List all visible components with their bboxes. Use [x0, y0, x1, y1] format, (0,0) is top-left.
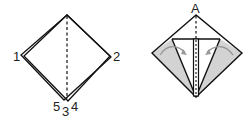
- left-diamond-back: [21, 15, 111, 100]
- label-3: 3: [62, 104, 69, 119]
- right-figure: A: [152, 1, 242, 97]
- origami-diagram: 1 2 5 3 4 A: [0, 0, 250, 124]
- label-5: 5: [53, 99, 60, 114]
- label-4: 4: [71, 99, 78, 114]
- label-2: 2: [113, 49, 120, 64]
- left-figure: 1 2 5 3 4: [13, 15, 120, 119]
- label-A: A: [191, 1, 200, 16]
- label-1: 1: [13, 49, 20, 64]
- center-strip: [194, 39, 199, 96]
